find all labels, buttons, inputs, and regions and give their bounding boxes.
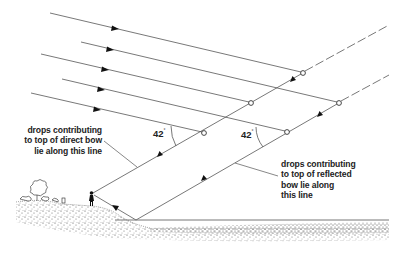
angle-label-direct: 42° xyxy=(153,128,166,139)
raindrop-circle xyxy=(202,131,207,136)
arrow-icon xyxy=(112,205,119,211)
angle-label-reflected: 42° xyxy=(241,129,254,140)
sun-ray-arrowheads xyxy=(93,26,119,113)
arrow-icon xyxy=(111,26,119,32)
label-line: bow lie along xyxy=(281,180,401,190)
observer-figure xyxy=(89,191,94,206)
raindrop-circle xyxy=(249,101,254,106)
label-line: this line xyxy=(281,190,401,200)
arrow-icon xyxy=(290,76,296,82)
degree-symbol: ° xyxy=(164,127,166,133)
label-line: lie along this line xyxy=(8,146,102,156)
sun-rays xyxy=(31,13,337,132)
bush-icon xyxy=(52,198,58,202)
label-line: drops contributing xyxy=(281,159,401,169)
label-line: drops contributing xyxy=(8,125,102,135)
raindrop-circle xyxy=(337,101,342,106)
observer-head xyxy=(90,191,94,195)
arrow-icon xyxy=(157,151,163,157)
label-line: to top of reflected xyxy=(281,169,401,179)
sun-ray-1 xyxy=(50,13,301,72)
ground-band xyxy=(150,222,389,234)
raindrops xyxy=(202,71,342,136)
raindrop-circle xyxy=(301,71,306,76)
bush-icon xyxy=(20,196,31,201)
tree-icon xyxy=(30,180,47,196)
observer-body xyxy=(89,195,94,206)
hill xyxy=(16,200,389,241)
angle-value: 42 xyxy=(241,129,252,140)
reflected-bow-label: drops contributing to top of reflected b… xyxy=(281,159,401,200)
bushes xyxy=(20,180,65,204)
arrow-icon xyxy=(317,111,323,117)
bush-icon xyxy=(41,196,49,201)
post-icon xyxy=(62,198,65,203)
label-leaders xyxy=(104,141,278,176)
raindrop-circle xyxy=(285,130,290,135)
label-line: to top of direct bow xyxy=(8,135,102,145)
angle-arc-direct xyxy=(171,126,176,146)
arrow-icon xyxy=(201,175,207,181)
sun-ray-3 xyxy=(41,54,249,102)
arrow-icon xyxy=(93,107,101,113)
angle-value: 42 xyxy=(153,128,164,139)
angle-arc-reflected xyxy=(256,127,263,147)
direct-bow-label: drops contributing to top of direct bow … xyxy=(8,125,102,156)
degree-symbol: ° xyxy=(252,128,254,134)
arrow-icon xyxy=(97,87,105,93)
